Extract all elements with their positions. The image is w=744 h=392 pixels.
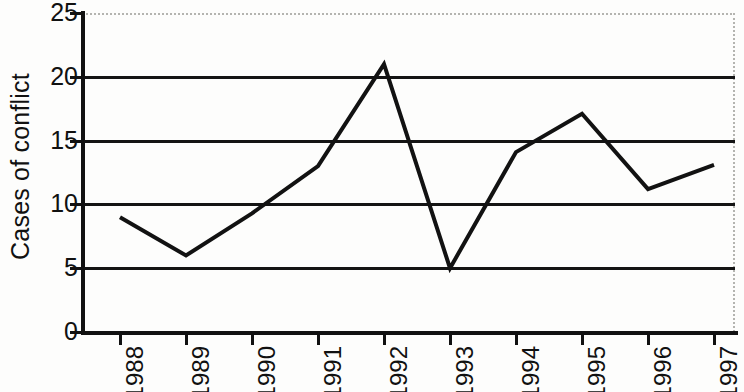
x-axis-tick-mark [515,332,518,345]
x-axis-tick-label-text: 1995 [582,346,612,392]
x-axis-tick-mark [251,332,254,345]
plot-area [83,13,735,332]
x-axis-tick-mark [647,332,650,345]
x-axis-tick-label-text: 1991 [318,346,348,392]
y-axis-tick-mark [70,267,84,270]
x-axis-tick-label-text: 1992 [384,346,414,392]
x-axis-tick-label: 1991 [303,346,333,392]
gridline [83,267,735,270]
x-axis-tick-label: 1997 [699,346,729,392]
y-axis-tick-mark [70,331,84,334]
gridline [83,140,735,143]
x-axis-tick-label-text: 1993 [450,346,480,392]
x-axis-tick-label: 1996 [633,346,663,392]
x-axis-tick-mark [119,332,122,345]
y-axis-tick-mark [70,203,84,206]
plot-top-border [83,13,735,15]
y-axis-tick-mark [70,76,84,79]
x-axis-tick-label-text: 1994 [516,346,546,392]
plot-right-border [733,13,735,332]
gridline [83,76,735,79]
x-axis-tick-label: 1990 [237,346,267,392]
x-axis-tick-mark [713,332,716,345]
x-axis-spine [81,331,738,335]
x-axis-tick-mark [383,332,386,345]
y-axis-tick-mark [70,12,84,15]
x-axis-tick-label-text: 1988 [120,346,150,392]
x-axis-tick-label: 1989 [171,346,201,392]
x-axis-tick-mark [317,332,320,345]
y-axis-spine [81,11,85,334]
x-axis-tick-label: 1993 [435,346,465,392]
x-axis-tick-mark [449,332,452,345]
x-axis-tick-label-text: 1990 [252,346,282,392]
gridline [83,203,735,206]
x-axis-tick-label: 1994 [501,346,531,392]
x-axis-tick-label-text: 1989 [186,346,216,392]
x-axis-tick-mark [185,332,188,345]
x-axis-tick-label-text: 1996 [648,346,678,392]
chart-figure: Cases of conflict 0510152025 19881989199… [0,0,744,392]
x-axis-tick-label: 1988 [105,346,135,392]
x-axis-tick-label-text: 1997 [714,346,744,392]
x-axis-tick-label: 1995 [567,346,597,392]
x-axis-tick-label: 1992 [369,346,399,392]
x-axis-tick-mark [581,332,584,345]
y-axis-tick-mark [70,140,84,143]
